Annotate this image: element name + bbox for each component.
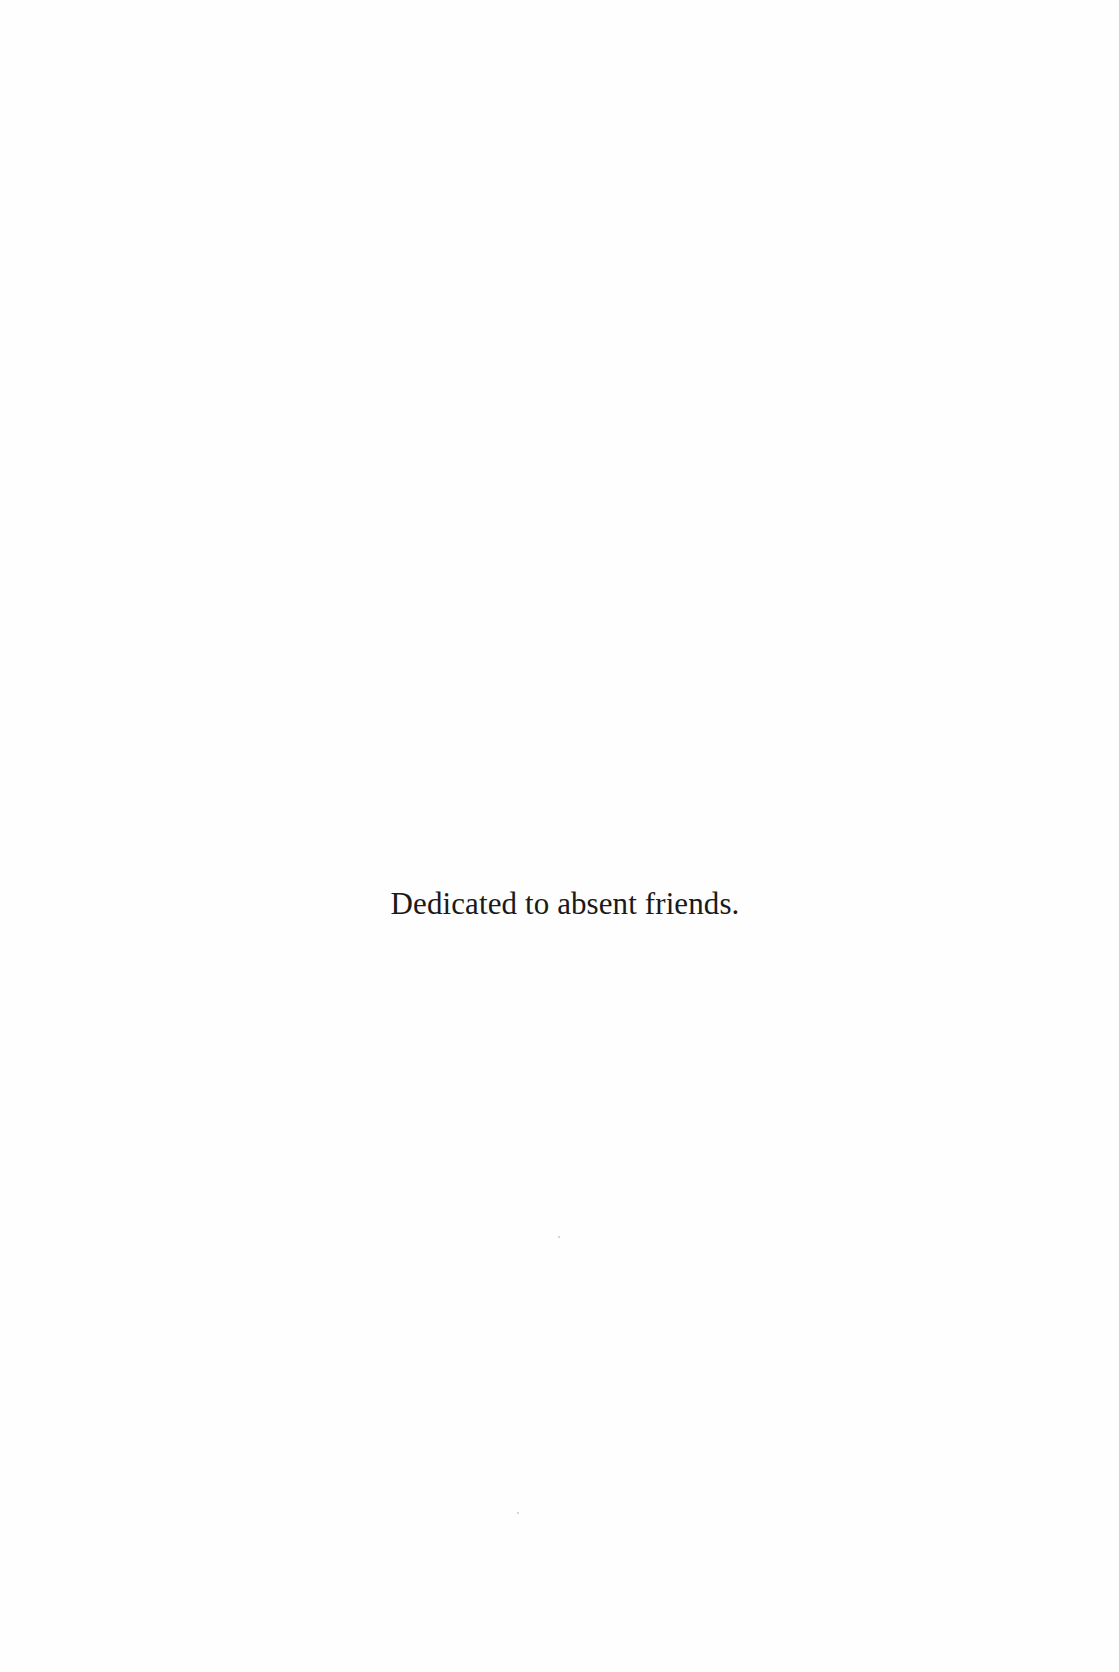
scan-speck: [558, 1236, 560, 1238]
book-page: Dedicated to absent friends.: [0, 0, 1119, 1672]
scan-speck: [517, 1512, 519, 1514]
dedication-text: Dedicated to absent friends.: [0, 884, 1119, 924]
